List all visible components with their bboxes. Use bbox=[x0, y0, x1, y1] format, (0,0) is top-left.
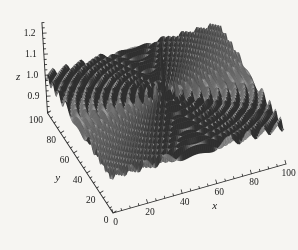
surface-plot-figure: 0204060801000204060801000.91.01.11.2xyz bbox=[0, 0, 298, 250]
surface-plot-canvas bbox=[0, 0, 298, 250]
